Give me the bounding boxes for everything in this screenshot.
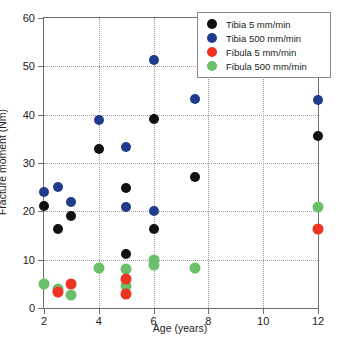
legend-marker-icon (207, 47, 217, 57)
data-point (121, 183, 131, 193)
y-axis-tick (38, 163, 44, 164)
data-point (313, 131, 323, 141)
y-axis-title: Fracture moment (Nm) (0, 109, 8, 215)
x-axis-tick-label: 4 (96, 315, 102, 327)
data-point (66, 211, 76, 221)
data-point (149, 224, 159, 234)
data-point (189, 263, 200, 274)
data-point (53, 182, 63, 192)
data-point (121, 288, 132, 299)
x-axis-tick-label: 2 (41, 315, 47, 327)
gridline-horizontal (44, 211, 318, 212)
data-point (149, 206, 159, 216)
gridline-horizontal (44, 260, 318, 261)
legend-marker-icon (207, 33, 217, 43)
legend-item-label: Tibia 500 mm/min (226, 33, 301, 44)
x-axis-tick (318, 308, 319, 314)
data-point (121, 274, 132, 285)
x-axis-tick (99, 308, 100, 314)
x-axis-tick (263, 308, 264, 314)
legend-item-label: Tibia 5 mm/min (226, 19, 291, 30)
y-axis-tick (38, 18, 44, 19)
data-point (148, 260, 159, 271)
y-axis-tick (38, 211, 44, 212)
data-point (190, 172, 200, 182)
data-point (313, 201, 324, 212)
y-axis-tick-label: 50 (23, 60, 35, 72)
x-axis-title: Age (years) (153, 322, 207, 334)
data-point (94, 115, 104, 125)
data-point (53, 224, 63, 234)
data-point (66, 289, 77, 300)
gridline-horizontal (44, 163, 318, 164)
y-axis-tick-label: 10 (23, 254, 35, 266)
data-point (313, 224, 324, 235)
data-point (94, 144, 104, 154)
legend-marker-icon (207, 19, 217, 29)
y-axis-tick-label: 20 (23, 205, 35, 217)
legend-item-label: Fibula 5 mm/min (226, 47, 296, 58)
data-point (66, 278, 77, 289)
data-point (39, 201, 49, 211)
y-axis-tick-label: 30 (23, 157, 35, 169)
y-axis-tick (38, 66, 44, 67)
y-axis-tick-label: 0 (29, 302, 35, 314)
x-axis-tick-label: 12 (312, 315, 324, 327)
legend-item: Tibia 500 mm/min (203, 31, 325, 45)
legend-item: Fibula 500 mm/min (203, 59, 325, 73)
legend-marker-icon (207, 61, 217, 71)
data-point (52, 287, 63, 298)
data-point (66, 197, 76, 207)
legend: Tibia 5 mm/minTibia 500 mm/minFibula 5 m… (197, 12, 331, 78)
y-axis-tick-label: 60 (23, 12, 35, 24)
scatter-chart-figure: 010203040506024681012 Fracture moment (N… (0, 0, 337, 338)
x-axis-tick (44, 308, 45, 314)
y-axis-tick (38, 260, 44, 261)
gridline-horizontal (44, 115, 318, 116)
data-point (313, 95, 323, 105)
data-point (121, 142, 131, 152)
y-axis-tick-label: 40 (23, 109, 35, 121)
y-axis-tick (38, 115, 44, 116)
data-point (149, 55, 159, 65)
data-point (121, 249, 131, 259)
legend-item: Fibula 5 mm/min (203, 45, 325, 59)
data-point (93, 263, 104, 274)
data-point (149, 114, 159, 124)
x-axis-tick (208, 308, 209, 314)
data-point (190, 94, 200, 104)
x-axis-tick-label: 10 (257, 315, 269, 327)
data-point (121, 202, 131, 212)
data-point (39, 278, 50, 289)
data-point (39, 187, 49, 197)
x-axis-tick (154, 308, 155, 314)
legend-item: Tibia 5 mm/min (203, 17, 325, 31)
legend-item-label: Fibula 500 mm/min (226, 61, 307, 72)
